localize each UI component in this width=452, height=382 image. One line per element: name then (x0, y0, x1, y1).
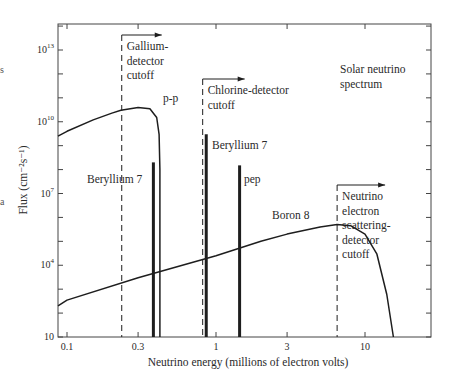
y-tick-label: 1010 (37, 114, 55, 127)
arrow-right-icon (238, 77, 245, 82)
y-axis-title: Flux (cm⁻²s⁻¹) (17, 145, 30, 214)
series-label: pep (244, 173, 261, 186)
y-tick-label: 10 (44, 331, 54, 342)
x-tick-label: 1 (214, 341, 219, 352)
series-label: Boron 8 (272, 209, 310, 221)
x-tick-label: 10 (360, 341, 370, 352)
y-tick-label: 104 (41, 257, 55, 270)
y-tick-label: 1013 (37, 42, 55, 55)
x-tick-label: 3 (285, 341, 290, 352)
x-axis-title: Neutrino energy (millions of electron vo… (148, 356, 349, 369)
x-axis-ticks: 0.10.31310 (61, 24, 370, 352)
cutoff-label: Gallium-detectorcutoff (127, 40, 169, 81)
solar-neutrino-chart: 0.10.31310 1010410710101013 Gallium-dete… (0, 0, 452, 382)
chart-title: Solar neutrinospectrum (340, 63, 406, 91)
x-tick-label: 0.3 (132, 341, 145, 352)
annotations: p-pBeryllium 7Beryllium 7pepBoron 8 (87, 92, 310, 221)
pp-spectrum-curve (58, 107, 160, 337)
series-label: p-p (163, 92, 179, 105)
series-label: Beryllium 7 (212, 139, 268, 152)
series-label: Beryllium 7 (87, 173, 143, 186)
chart-title-text: Solar neutrinospectrum (340, 63, 406, 91)
x-tick-label: 0.1 (61, 341, 74, 352)
cutoff-label: Chlorine-detectorcutoff (208, 84, 289, 111)
arrow-right-icon (155, 33, 162, 38)
arrow-right-icon (378, 183, 385, 188)
y-tick-label: 107 (41, 186, 55, 199)
